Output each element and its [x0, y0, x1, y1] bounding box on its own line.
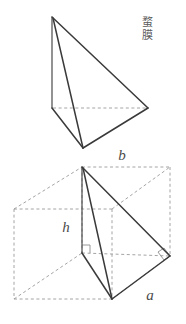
right-angle-mark-foot [82, 245, 90, 253]
label-a: a [146, 287, 154, 303]
bottom-tetra-edge-apex-front [83, 168, 112, 299]
bottom-tetra-edges [82, 167, 170, 299]
figure-canvas: b h a [0, 0, 186, 324]
top-tetrahedron [52, 17, 148, 148]
label-h: h [62, 219, 70, 235]
box-back-bottom-edge [82, 253, 170, 256]
top-tetra-edge-front-right [83, 108, 148, 148]
bottom-tetra-edge-front-right [112, 256, 170, 299]
box-depth-edge-top-left [14, 167, 82, 209]
bottom-tetrahedron-group: b h a [14, 147, 170, 303]
top-tetra-edge-apex-right [52, 17, 148, 108]
geometry-figure: b h a 蝥 膜 [0, 0, 186, 324]
box-depth-edge-bottom-left [14, 253, 82, 299]
box-depth-edge-top-right [112, 167, 170, 209]
cjk-annotation: 蝥 膜 [136, 16, 158, 43]
label-b: b [118, 147, 126, 163]
bottom-tetra-edge-apex-right [82, 167, 170, 256]
right-angle-markers [82, 245, 170, 260]
